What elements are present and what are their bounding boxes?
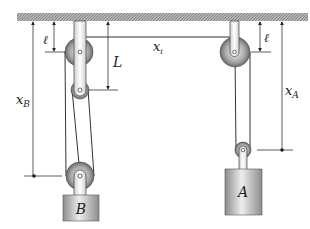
dim-xa-label: xA [285, 83, 299, 100]
block-b-label: B [75, 201, 86, 217]
axle-top-right [233, 50, 237, 54]
pulley-diagram: B A xB ℓ L xi ℓ xA [0, 0, 310, 229]
axle-top-left [78, 50, 82, 54]
dim-xi-label: xi [153, 39, 163, 56]
axle-a [241, 148, 245, 152]
axle-small-left [78, 88, 82, 92]
dim-xb-dot [32, 174, 36, 178]
hanger-left [74, 21, 86, 96]
block-a-label: A [236, 184, 248, 200]
dim-ell-left-label: ℓ [43, 33, 48, 47]
dim-xb-label: xB [16, 92, 30, 109]
dim-xa-dot [280, 148, 284, 152]
axle-b [78, 174, 82, 178]
dim-L-label: L [112, 54, 122, 70]
ceiling [17, 13, 308, 21]
dim-ell-right-label: ℓ [264, 31, 269, 45]
